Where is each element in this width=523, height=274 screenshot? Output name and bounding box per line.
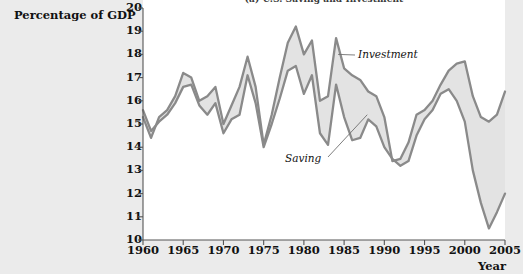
series-band bbox=[143, 27, 505, 229]
investment-label: Investment bbox=[358, 48, 418, 60]
saving-line bbox=[143, 66, 505, 228]
chart-plot-area bbox=[0, 0, 523, 274]
figure-container: (a) U.S. Saving and Investment Percentag… bbox=[0, 0, 523, 274]
saving-investment-gap-band bbox=[143, 27, 505, 229]
investment-leader-line bbox=[338, 54, 355, 55]
saving-label: Saving bbox=[285, 152, 321, 164]
